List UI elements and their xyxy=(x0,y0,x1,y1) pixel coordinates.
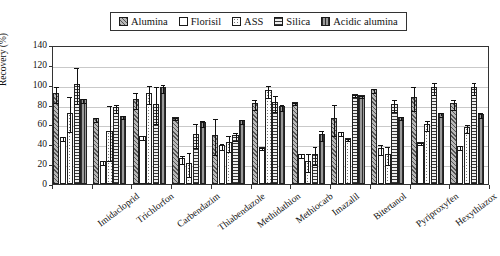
error-bar-cap xyxy=(259,148,264,149)
x-tick-mark xyxy=(449,185,450,189)
bar xyxy=(93,118,99,184)
error-bar-cap xyxy=(451,110,456,111)
x-tick-label: Trichlorfon xyxy=(134,191,175,225)
legend-item-acidic-alumina: Acidic alumina xyxy=(321,16,397,27)
error-bar-cap xyxy=(154,124,159,125)
error-bar xyxy=(116,105,117,113)
bar xyxy=(232,135,238,184)
error-bar-cap xyxy=(94,122,99,123)
error-bar xyxy=(70,97,71,133)
error-bar-cap xyxy=(100,161,105,162)
bar xyxy=(160,87,166,184)
error-bar xyxy=(308,154,309,172)
bar xyxy=(53,93,59,184)
error-bar-cap xyxy=(392,100,397,101)
error-bar-cap xyxy=(418,145,423,146)
error-bar-cap xyxy=(352,97,357,98)
bar xyxy=(259,147,265,184)
error-bar-cap xyxy=(200,121,205,122)
legend-swatch-alumina xyxy=(119,17,128,26)
error-bar xyxy=(434,83,435,95)
error-bar xyxy=(149,86,150,104)
legend-swatch-silica xyxy=(274,17,283,26)
error-bar-cap xyxy=(226,152,231,153)
x-tick-mark xyxy=(171,185,172,189)
bar-group xyxy=(252,47,292,184)
legend-label-alumina: Alumina xyxy=(131,16,168,27)
error-bar-cap xyxy=(425,131,430,132)
error-bar-cap xyxy=(161,85,166,86)
bar-group xyxy=(450,47,490,184)
bar xyxy=(265,90,271,184)
error-bar-cap xyxy=(273,112,278,113)
bar-group xyxy=(291,47,331,184)
error-bar-cap xyxy=(266,98,271,99)
error-bar xyxy=(77,68,78,104)
error-bar-cap xyxy=(465,133,470,134)
x-tick-label: Pyriproxyfen xyxy=(414,191,460,229)
x-tick-label: Carbendazim xyxy=(176,191,222,229)
error-bar-cap xyxy=(140,140,145,141)
error-bar-cap xyxy=(173,120,178,121)
error-bar-cap xyxy=(240,120,245,121)
error-bar-cap xyxy=(478,118,483,119)
error-bar-cap xyxy=(61,141,66,142)
error-bar-cap xyxy=(200,127,205,128)
error-bar xyxy=(322,131,323,141)
error-bar-cap xyxy=(220,144,225,145)
error-bar xyxy=(315,147,316,165)
error-bar-cap xyxy=(458,146,463,147)
error-bar-cap xyxy=(100,165,105,166)
error-bar-cap xyxy=(187,177,192,178)
error-bar-cap xyxy=(332,136,337,137)
error-bar-cap xyxy=(74,68,79,69)
error-bar-cap xyxy=(432,95,437,96)
bar xyxy=(146,93,152,184)
error-bar xyxy=(156,87,157,125)
error-bar-cap xyxy=(147,86,152,87)
error-bar-cap xyxy=(266,86,271,87)
error-bar xyxy=(427,121,428,131)
bar xyxy=(172,117,178,184)
error-bar-cap xyxy=(432,83,437,84)
error-bar-cap xyxy=(478,113,483,114)
error-bar-cap xyxy=(193,124,198,125)
error-bar-cap xyxy=(67,97,72,98)
y-tick-label: 120 xyxy=(21,61,47,71)
error-bar-cap xyxy=(359,98,364,99)
error-bar-cap xyxy=(259,150,264,151)
error-bar-cap xyxy=(213,119,218,120)
legend-item-alumina: Alumina xyxy=(119,16,168,27)
bar xyxy=(471,87,477,184)
error-bar-cap xyxy=(240,124,245,125)
error-bar-cap xyxy=(472,83,477,84)
error-bar-cap xyxy=(233,141,238,142)
error-bar-cap xyxy=(94,118,99,119)
error-bar xyxy=(381,145,382,155)
error-bar-cap xyxy=(425,121,430,122)
error-bar-cap xyxy=(273,96,278,97)
bar xyxy=(113,107,119,184)
error-bar-cap xyxy=(411,87,416,88)
error-bar-cap xyxy=(280,105,285,106)
error-bar xyxy=(189,153,190,177)
bar xyxy=(352,94,358,184)
error-bar xyxy=(229,136,230,152)
error-bar xyxy=(388,147,389,165)
legend-swatch-ass xyxy=(232,17,241,26)
x-tick-mark xyxy=(131,185,132,189)
error-bar-cap xyxy=(74,104,79,105)
y-tick-label: 0 xyxy=(21,180,47,190)
error-bar-cap xyxy=(213,155,218,156)
error-bar-cap xyxy=(252,110,257,111)
bar-series-layer xyxy=(53,47,488,184)
error-bar-cap xyxy=(372,93,377,94)
error-bar xyxy=(268,86,269,98)
legend-swatch-florisil xyxy=(179,17,188,26)
bar xyxy=(431,87,437,184)
error-bar-cap xyxy=(465,125,470,126)
error-bar-cap xyxy=(67,132,72,133)
error-bar-cap xyxy=(306,154,311,155)
error-bar xyxy=(474,83,475,95)
x-tick-mark xyxy=(251,185,252,189)
